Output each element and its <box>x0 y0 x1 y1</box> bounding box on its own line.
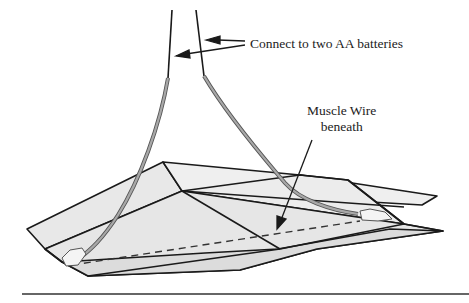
muscle-wire-label-line2: beneath <box>307 119 376 135</box>
diagram-canvas: Connect to two AA batteries Muscle Wire … <box>0 0 469 303</box>
connect-arrows <box>176 36 245 58</box>
muscle-wire-label-line1: Muscle Wire <box>307 103 376 119</box>
connect-batteries-label: Connect to two AA batteries <box>250 36 403 52</box>
muscle-wire-label: Muscle Wire beneath <box>307 103 376 134</box>
